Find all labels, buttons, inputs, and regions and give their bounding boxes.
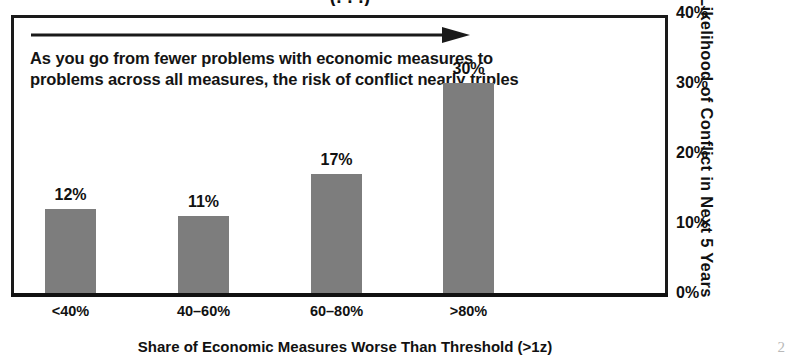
annotation-callout: As you go from fewer problems with econo… [30, 48, 590, 90]
rightward-trend-arrow [30, 26, 470, 44]
x-axis-title: Share of Economic Measures Worse Than Th… [0, 338, 690, 355]
bar-value-60-80: 17% [311, 151, 362, 169]
page-number: 2 [778, 339, 786, 356]
bar-gt80 [443, 83, 494, 293]
annotation-line-1: As you go from fewer problems with econo… [30, 48, 590, 69]
y-axis-title: Likelihood of Conflict in Next 5 Years [686, 0, 716, 346]
x-tick-gt80: >80% [428, 303, 509, 319]
x-tick-60-80: 60–80% [296, 303, 377, 319]
x-tick-40-60: 40–60% [163, 303, 244, 319]
bar-lt40 [45, 209, 96, 293]
clipped-figure-title: (. . .) [0, 0, 700, 6]
bar-value-gt80: 30% [443, 60, 494, 78]
x-axis-baseline [11, 293, 668, 297]
bar-value-lt40: 12% [45, 186, 96, 204]
bar-40-60 [178, 216, 229, 293]
annotation-line-2: problems across all measures, the risk o… [30, 69, 590, 90]
x-tick-lt40: <40% [30, 303, 111, 319]
chart-figure: (. . .) As you go from fewer problems wi… [0, 0, 797, 362]
bar-60-80 [311, 174, 362, 293]
bar-value-40-60: 11% [178, 193, 229, 211]
